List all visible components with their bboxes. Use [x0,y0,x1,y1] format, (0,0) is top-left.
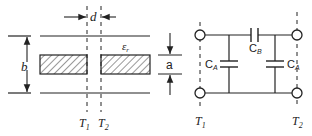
strip-conductor-left [40,55,87,74]
port2-bottom-terminal [292,88,302,98]
thickness-label-a: a [166,58,173,72]
port1-label: T1 [195,114,206,130]
port2-top-terminal [292,30,302,40]
dielectric-label: εr [122,40,129,54]
series-capacitor-cb [251,28,258,42]
shunt-capacitor-right [266,35,284,93]
port1-bottom-terminal [195,88,205,98]
series-cap-label: CB [249,42,262,55]
port2-label: T2 [292,114,303,130]
stripline-gap-diagram: d b εr a T1 T2 CB CA [0,0,312,136]
shunt-capacitor-left [220,35,238,93]
shunt-cap-left-label: CA [205,58,218,71]
strip-conductor-right [101,55,150,74]
shunt-cap-right-label: CA [287,58,300,71]
port1-top-terminal [195,30,205,40]
ref-plane-t2-label: T2 [98,116,109,132]
ref-plane-t1-label: T1 [79,116,90,132]
gap-label-d: d [90,9,97,24]
height-label-b: b [21,59,28,74]
